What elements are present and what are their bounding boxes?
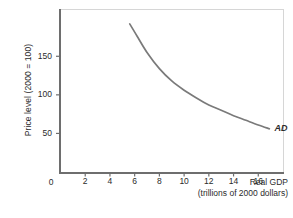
y-tick-label: 150 <box>12 52 52 61</box>
ad-curve-line <box>130 24 270 129</box>
y-axis-tick-labels: 50100150 <box>8 0 52 180</box>
ad-curve-annotation: AD <box>274 123 287 133</box>
x-tick-label: 6 <box>123 177 147 186</box>
y-tick-label: 50 <box>12 129 52 138</box>
x-axis-title: Real GDP <box>183 177 288 187</box>
x-axis-origin-label: 0 <box>39 177 63 187</box>
x-tick-label: 4 <box>98 177 122 186</box>
aggregate-demand-chart-figure: Price level (2000 = 100) 50100150 0 2468… <box>0 0 293 218</box>
y-axis-tick-marks <box>56 56 61 133</box>
x-tick-label: 2 <box>73 177 97 186</box>
x-tick-label: 8 <box>147 177 171 186</box>
y-tick-label: 100 <box>12 90 52 99</box>
x-axis-subtitle: (trillions of 2000 dollars) <box>158 188 288 198</box>
